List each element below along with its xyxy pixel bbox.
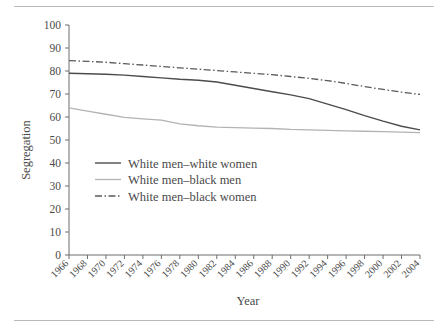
- x-tick-label: 1974: [122, 258, 144, 280]
- x-tick-label: 1968: [67, 258, 89, 280]
- x-tick-label: 1982: [196, 258, 218, 280]
- segregation-line-chart: 0102030405060708090100 19661968197019721…: [0, 0, 448, 333]
- x-tick-label: 1988: [252, 258, 274, 280]
- series-line-1: [69, 73, 420, 130]
- x-axis-tick-labels: 1966196819701972197419761978198019821984…: [48, 258, 421, 280]
- series-line-3: [69, 61, 420, 95]
- x-tick-label: 1970: [85, 258, 107, 280]
- legend-label-2: White men–black men: [128, 173, 242, 187]
- x-tick-label: 2000: [363, 258, 385, 280]
- y-axis-title: Segregation: [19, 119, 33, 179]
- y-axis-ticks: [65, 25, 69, 255]
- legend-label-1: White men–white women: [128, 157, 258, 171]
- figure-container: 0102030405060708090100 19661968197019721…: [0, 0, 448, 333]
- x-axis-title: Year: [236, 294, 260, 308]
- y-tick-label: 50: [50, 134, 62, 146]
- x-tick-label: 1980: [178, 258, 200, 280]
- x-tick-label: 1998: [344, 258, 366, 280]
- x-tick-label: 2004: [399, 258, 421, 280]
- data-series-group: [69, 61, 420, 133]
- x-tick-label: 1994: [307, 258, 329, 280]
- series-line-2: [69, 108, 420, 133]
- y-tick-label: 60: [50, 111, 62, 123]
- x-tick-label: 1976: [141, 258, 163, 280]
- x-tick-label: 1984: [215, 258, 237, 280]
- y-tick-label: 70: [50, 88, 62, 100]
- x-tick-label: 1978: [159, 258, 181, 280]
- chart-legend: White men–white womenWhite men–black men…: [95, 157, 258, 204]
- y-tick-label: 80: [50, 65, 62, 77]
- y-tick-label: 30: [50, 180, 62, 192]
- x-axis-ticks: [69, 255, 420, 259]
- y-tick-label: 100: [44, 19, 62, 31]
- y-tick-label: 20: [50, 203, 62, 215]
- y-tick-label: 10: [50, 226, 62, 238]
- x-tick-label: 1990: [270, 258, 292, 280]
- x-tick-label: 1986: [233, 258, 255, 280]
- y-tick-label: 90: [50, 42, 62, 54]
- x-tick-label: 1966: [48, 258, 70, 280]
- x-tick-label: 1992: [289, 258, 311, 280]
- x-tick-label: 2002: [381, 258, 403, 280]
- y-tick-label: 40: [50, 157, 62, 169]
- y-axis-tick-labels: 0102030405060708090100: [44, 19, 62, 261]
- x-tick-label: 1972: [104, 258, 126, 280]
- legend-label-3: White men–black women: [128, 190, 257, 204]
- x-tick-label: 1996: [326, 258, 348, 280]
